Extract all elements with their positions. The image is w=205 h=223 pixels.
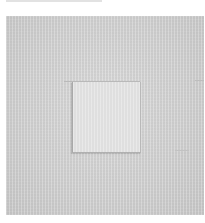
artwork-photo: [0, 0, 205, 223]
canvas-mark-lower-right: [175, 150, 189, 151]
canvas-mark-upper-right: [195, 80, 204, 81]
top-edge-line: [6, 0, 102, 2]
inset-square-panel: [72, 82, 141, 153]
